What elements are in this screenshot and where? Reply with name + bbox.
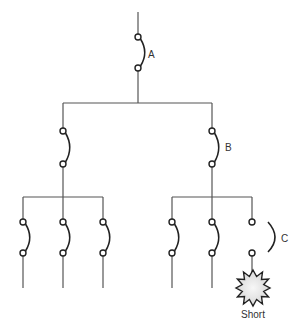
breaker-left-blade <box>66 133 70 162</box>
breaker-rr2-bottom-contact <box>209 250 215 256</box>
breaker-ll1-bottom-contact <box>20 250 26 256</box>
breaker-b-bottom-contact <box>209 161 215 167</box>
breaker-rr2-blade <box>215 224 219 251</box>
breaker-ll1-top-contact <box>20 219 26 225</box>
breaker-b <box>209 128 219 167</box>
breaker-ll3-top-contact <box>100 219 106 225</box>
breaker-left-top-contact <box>60 128 66 134</box>
breaker-b-blade <box>215 133 219 162</box>
breaker-c-label: C <box>281 233 288 244</box>
breaker-c-blade-open <box>268 222 275 252</box>
short-circuit-burst-icon <box>236 270 270 306</box>
breaker-rr1-bottom-contact <box>169 250 175 256</box>
breaker-ll1-blade <box>26 224 30 251</box>
breaker-a-bottom-contact <box>135 65 141 71</box>
breaker-c-bottom-contact <box>249 250 255 256</box>
breaker-a-blade <box>141 39 145 66</box>
breaker-rr1-blade <box>175 224 179 251</box>
breaker-ll2 <box>60 219 70 256</box>
short-label: Short <box>241 309 265 320</box>
breaker-ll1 <box>20 219 30 256</box>
breaker-ll3 <box>100 219 110 256</box>
breaker-ll3-blade <box>106 224 110 251</box>
breaker-a-label: A <box>148 49 155 60</box>
coordination-diagram: A B C Short <box>0 0 307 335</box>
breaker-rr2-top-contact <box>209 219 215 225</box>
breaker-left <box>60 128 70 167</box>
breaker-a <box>135 34 145 71</box>
breaker-rr2 <box>209 219 219 256</box>
breaker-c <box>249 219 275 256</box>
breaker-b-top-contact <box>209 128 215 134</box>
breaker-c-top-contact <box>249 219 255 225</box>
breaker-ll2-bottom-contact <box>60 250 66 256</box>
breaker-rr1 <box>169 219 179 256</box>
breaker-rr1-top-contact <box>169 219 175 225</box>
breaker-ll3-bottom-contact <box>100 250 106 256</box>
breaker-ll2-blade <box>66 224 70 251</box>
breaker-left-bottom-contact <box>60 161 66 167</box>
breaker-b-label: B <box>225 142 232 153</box>
breaker-a-top-contact <box>135 34 141 40</box>
circuit-svg: A B C Short <box>0 0 307 335</box>
breaker-ll2-top-contact <box>60 219 66 225</box>
